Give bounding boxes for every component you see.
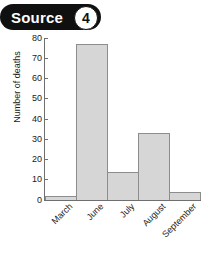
y-tick-label: 80 (32, 34, 45, 43)
x-tick-label: August (141, 202, 167, 228)
bar (107, 172, 139, 200)
y-tick-label: 50 (32, 94, 45, 103)
bar (138, 133, 170, 200)
x-tick-label: June (85, 202, 105, 222)
y-tick-label: 40 (32, 115, 45, 124)
y-tick-label: 60 (32, 74, 45, 83)
bar (76, 44, 108, 200)
bar-chart: Number of deaths 01020304050607080 March… (0, 30, 218, 256)
x-tick-label: July (119, 202, 137, 220)
plot-area: 01020304050607080 (44, 38, 201, 201)
y-tick-label: 30 (32, 135, 45, 144)
bar (169, 192, 201, 200)
source-figure: Source 4 Number of deaths 01020304050607… (0, 0, 218, 256)
y-tick-label: 70 (32, 54, 45, 63)
y-axis-label: Number of deaths (12, 22, 22, 152)
bar (45, 196, 77, 200)
y-tick-label: 20 (32, 155, 45, 164)
source-badge-number: 4 (82, 11, 90, 25)
source-badge-circle: 4 (74, 6, 98, 30)
y-tick-label: 10 (32, 175, 45, 184)
bar-series (45, 38, 201, 200)
x-tick-label: March (50, 202, 74, 226)
x-axis-labels: MarchJuneJulyAugustSeptember (44, 202, 200, 256)
